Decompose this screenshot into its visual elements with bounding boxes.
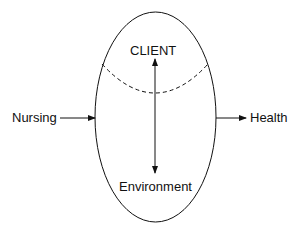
health-label: Health	[250, 111, 288, 124]
environment-label: Environment	[119, 180, 192, 193]
nursing-label: Nursing	[12, 111, 57, 124]
client-label: CLIENT	[130, 44, 176, 57]
